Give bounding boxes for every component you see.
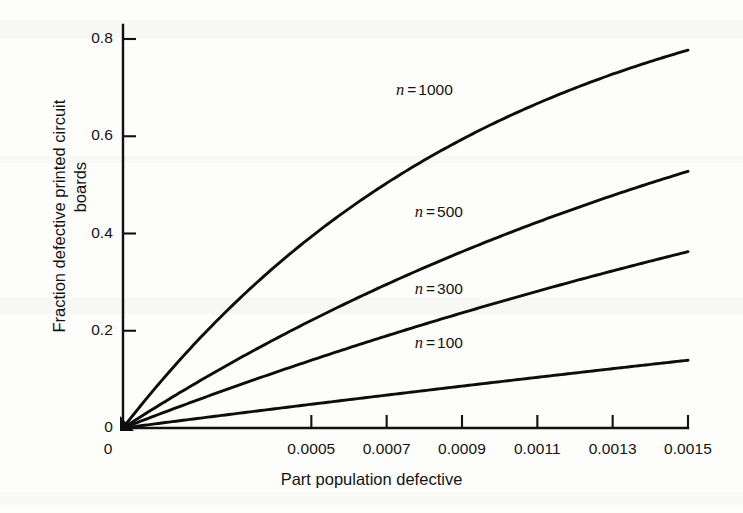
x-tick-label-0: 0 [53,440,163,458]
series-label-value: 1000 [418,81,452,98]
series-label-equals: = [424,280,437,297]
y-axis-ticks [123,39,136,331]
series-label-value: 100 [437,334,463,351]
series-label-equals: = [405,81,418,98]
curve-n-300 [123,252,688,428]
x-tick-label-0.0015: 0.0015 [633,440,743,458]
curve-n-500 [123,171,688,428]
y-tick-label-0.8: 0.8 [45,29,113,47]
curve-n-100 [123,360,688,428]
series-label-variable: n [415,333,424,352]
chart-page: 00.20.40.60.8 00.00050.00070.00090.00110… [0,0,743,513]
y-tick-label-0: 0 [45,418,113,436]
series-label-equals: = [424,334,437,351]
series-label-value: 500 [437,203,463,220]
series-label-value: 300 [437,280,463,297]
y-axis-title-line-2: boards [70,51,91,323]
y-axis-title: Fraction defective printed circuit board… [49,51,91,381]
series-label-equals: = [424,203,437,220]
x-axis-ticks [311,415,688,428]
series-label-variable: n [415,279,424,298]
curve-n-1000 [123,50,688,428]
data-curves [123,50,688,428]
series-label-n-500: n=500 [415,202,463,222]
series-label-n-100: n=100 [415,333,463,353]
y-axis-title-line-1: Fraction defective printed circuit [49,51,70,381]
series-label-variable: n [396,80,405,99]
plot-area [0,0,743,513]
series-label-n-1000: n=1000 [396,80,453,100]
series-label-n-300: n=300 [415,279,463,299]
x-axis-title: Part population defective [0,470,743,489]
series-label-variable: n [415,202,424,221]
